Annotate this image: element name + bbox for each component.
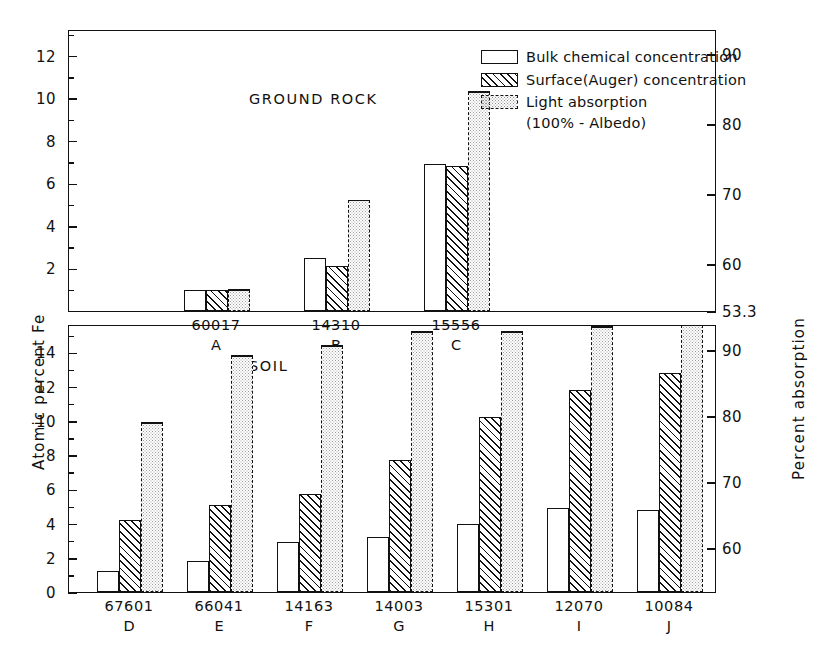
y-tick-label-left: 12 (36, 48, 56, 66)
bar-bulk (184, 290, 206, 311)
bar-top-edge (681, 325, 704, 326)
y-tick-label-left: 0 (46, 584, 56, 602)
bar-group (367, 332, 433, 592)
sample-letter: G (374, 618, 423, 634)
sample-letter: J (644, 618, 693, 634)
y-tick-left-minor (68, 438, 74, 439)
panel-title-ground-rock: GROUND ROCK (249, 91, 378, 107)
y-tick-left (68, 490, 77, 492)
y-tick-left-minor (68, 472, 74, 473)
y-tick-left-minor (68, 247, 74, 248)
bar-light (231, 356, 253, 592)
bar-group (457, 332, 523, 592)
y-tick-left (68, 455, 77, 457)
y-tick-label-right: 53.3 (722, 303, 757, 321)
y-tick-left (68, 353, 77, 355)
y-tick-label-left: 8 (46, 447, 56, 465)
sample-number: 10084 (644, 598, 693, 614)
bar-surface (389, 460, 411, 592)
y-tick-label-right: 70 (722, 474, 742, 492)
bar-group (187, 356, 253, 592)
bar-surface (479, 417, 501, 592)
x-tick-label: 14163F (284, 598, 333, 634)
bar-top-edge (141, 422, 164, 423)
y-tick-left-minor (68, 336, 74, 337)
y-tick-left-minor (68, 290, 74, 291)
y-tick-right (707, 194, 716, 196)
x-tick-label: 66041E (194, 598, 243, 634)
bar-group (184, 290, 250, 311)
bar-top-edge (228, 289, 251, 290)
legend-swatch-bulk-icon (481, 50, 518, 64)
x-tick-label: 15301H (464, 598, 513, 634)
bar-top-edge (231, 355, 254, 356)
y-tick-right (707, 350, 716, 352)
bar-top-edge (591, 326, 614, 327)
y-tick-right (707, 548, 716, 550)
bar-surface (446, 166, 468, 311)
bar-group (637, 325, 703, 592)
y-tick-left-minor (68, 162, 74, 163)
bar-surface (119, 520, 141, 592)
y-tick-left-minor (68, 205, 74, 206)
bar-top-edge (501, 331, 524, 332)
y-tick-right (707, 482, 716, 484)
y-tick-right (707, 416, 716, 418)
bar-light (591, 327, 613, 592)
legend-label-light: Light absorption (526, 94, 647, 110)
sample-number: 66041 (194, 598, 243, 614)
bar-surface (659, 373, 681, 592)
legend-label-light-sub: (100% - Albedo) (526, 115, 746, 131)
x-tick-label: 67601D (104, 598, 153, 634)
y-tick-left (68, 421, 77, 423)
y-tick-left-minor (68, 77, 74, 78)
y-tick-right (707, 311, 716, 313)
bar-light (141, 423, 163, 592)
y-tick-left-minor (68, 404, 74, 405)
y-tick-label-left: 6 (46, 481, 56, 499)
bar-top-edge (348, 200, 371, 201)
y-tick-left (68, 141, 77, 143)
bar-bulk (424, 164, 446, 311)
y-tick-right (707, 264, 716, 266)
sample-letter: D (104, 618, 153, 634)
bar-surface (569, 390, 591, 592)
legend: Bulk chemical concentration Surface(Auge… (481, 47, 746, 131)
bar-group (97, 423, 163, 592)
sample-number: 14163 (284, 598, 333, 614)
y-tick-left-minor (68, 35, 74, 36)
bar-bulk (457, 524, 479, 592)
x-tick-label: 14003G (374, 598, 423, 634)
y-tick-label-right: 60 (722, 256, 742, 274)
bar-group (277, 346, 343, 592)
bar-light (348, 200, 370, 311)
y-tick-left-minor (68, 370, 74, 371)
bar-light (681, 325, 703, 592)
sample-number: 12070 (554, 598, 603, 614)
bar-bulk (187, 561, 209, 592)
sample-number: 67601 (104, 598, 153, 614)
y-tick-left (68, 387, 77, 389)
sample-number: 14003 (374, 598, 423, 614)
bar-surface (299, 494, 321, 592)
y-axis-right-title: Percent absorption (790, 317, 808, 480)
y-tick-left-minor (68, 541, 74, 542)
bar-surface (209, 505, 231, 592)
y-tick-left-minor (68, 120, 74, 121)
x-tick-label: 12070I (554, 598, 603, 634)
y-tick-label-left: 2 (46, 260, 56, 278)
figure-root: Atomic percent Fe Percent absorption GRO… (0, 0, 819, 661)
legend-item-surface: Surface(Auger) concentration (481, 70, 746, 90)
y-tick-label-left: 2 (46, 550, 56, 568)
bar-group (304, 200, 370, 311)
bar-light (228, 290, 250, 311)
sample-letter: I (554, 618, 603, 634)
bar-top-edge (411, 331, 434, 332)
y-tick-left (68, 592, 77, 594)
legend-item-bulk: Bulk chemical concentration (481, 47, 746, 67)
bar-bulk (304, 258, 326, 311)
x-tick-label: 10084J (644, 598, 693, 634)
bar-group (547, 327, 613, 592)
y-tick-label-left: 6 (46, 175, 56, 193)
bar-bulk (277, 542, 299, 592)
